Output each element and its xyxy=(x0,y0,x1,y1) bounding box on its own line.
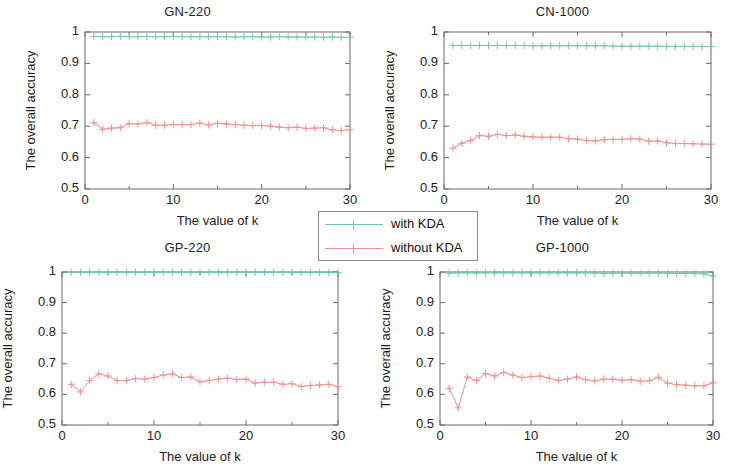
plus-marker-icon xyxy=(293,124,300,131)
plus-marker-icon xyxy=(285,33,292,40)
plus-marker-icon xyxy=(458,42,465,49)
plus-marker-icon xyxy=(664,379,671,386)
plus-marker-icon xyxy=(646,377,653,384)
plus-marker-icon xyxy=(90,33,97,40)
plus-marker-icon xyxy=(655,374,662,381)
y-axis-tick-label: 1 xyxy=(41,23,79,38)
plus-marker-icon xyxy=(132,269,139,276)
plus-marker-icon xyxy=(458,140,465,147)
plus-marker-icon xyxy=(123,377,130,384)
plus-marker-icon xyxy=(170,33,177,40)
x-axis-tick-label: 10 xyxy=(139,428,169,443)
plus-marker-icon xyxy=(574,135,581,142)
series-markers-without-kda xyxy=(68,370,342,395)
plus-marker-icon xyxy=(293,33,300,40)
plus-marker-icon xyxy=(636,43,643,50)
plus-marker-icon xyxy=(699,43,706,50)
axes-frame xyxy=(62,272,338,425)
plus-marker-icon xyxy=(529,42,536,49)
plus-marker-icon xyxy=(672,43,679,50)
plus-marker-icon xyxy=(232,33,239,40)
plus-marker-icon xyxy=(663,43,670,50)
plus-marker-icon xyxy=(491,269,498,276)
x-axis-label: The value of k xyxy=(62,449,338,464)
plus-marker-icon xyxy=(591,377,598,384)
plus-marker-icon xyxy=(618,43,625,50)
plus-marker-icon xyxy=(682,270,689,277)
plus-marker-icon xyxy=(529,133,536,140)
plus-marker-icon xyxy=(646,270,653,277)
plus-marker-icon xyxy=(537,269,544,276)
plus-marker-icon xyxy=(187,373,194,380)
legend-entry-with-kda: with KDA xyxy=(319,212,477,237)
plus-marker-icon xyxy=(123,269,130,276)
plus-marker-icon xyxy=(618,270,625,277)
y-axis-tick-label: 0.8 xyxy=(41,86,79,101)
chart-panel-gp-1000: GP-1000 0.50.60.70.80.910102030The value… xyxy=(375,240,750,469)
plus-marker-icon xyxy=(252,269,259,276)
series-markers-without-kda xyxy=(446,369,717,412)
plus-marker-icon xyxy=(672,140,679,147)
plus-marker-icon xyxy=(654,137,661,144)
plus-marker-icon xyxy=(178,269,185,276)
plus-marker-icon xyxy=(288,380,295,387)
plus-marker-icon xyxy=(348,243,359,254)
plus-marker-icon xyxy=(270,379,277,386)
plus-marker-icon xyxy=(170,121,177,128)
plus-marker-icon xyxy=(673,381,680,388)
plus-marker-icon xyxy=(104,269,111,276)
plus-marker-icon xyxy=(655,270,662,277)
plus-marker-icon xyxy=(114,377,121,384)
plus-marker-icon xyxy=(233,269,240,276)
plus-marker-icon xyxy=(467,137,474,144)
legend-entry-without-kda: without KDA xyxy=(319,236,477,261)
plus-marker-icon xyxy=(316,381,323,388)
plus-marker-icon xyxy=(464,269,471,276)
plus-marker-icon xyxy=(518,269,525,276)
plus-marker-icon xyxy=(311,124,318,131)
plus-marker-icon xyxy=(316,269,323,276)
plus-marker-icon xyxy=(449,42,456,49)
plus-marker-icon xyxy=(104,372,111,379)
x-axis-tick-label: 30 xyxy=(696,192,726,207)
plus-marker-icon xyxy=(233,376,240,383)
plus-marker-icon xyxy=(521,42,528,49)
plus-marker-icon xyxy=(601,136,608,143)
y-axis-tick-label: 0.9 xyxy=(41,54,79,69)
plus-marker-icon xyxy=(509,269,516,276)
plus-marker-icon xyxy=(503,132,510,139)
plus-marker-icon xyxy=(95,370,102,377)
y-axis-tick-label: 0.7 xyxy=(400,117,438,132)
plus-marker-icon xyxy=(609,270,616,277)
plus-marker-icon xyxy=(114,269,121,276)
plus-marker-icon xyxy=(574,42,581,49)
y-axis-label: The overall accuracy xyxy=(382,32,397,189)
plus-marker-icon xyxy=(618,377,625,384)
plus-marker-icon xyxy=(242,269,249,276)
x-axis-tick-label: 10 xyxy=(158,192,188,207)
plus-marker-icon xyxy=(279,269,286,276)
plus-marker-icon xyxy=(196,33,203,40)
plus-marker-icon xyxy=(161,122,168,129)
plus-marker-icon xyxy=(346,34,353,41)
y-axis-tick-label: 1 xyxy=(400,23,438,38)
plus-marker-icon xyxy=(512,131,519,138)
plus-marker-icon xyxy=(500,269,507,276)
plus-marker-icon xyxy=(143,33,150,40)
y-axis-tick-label: 0.7 xyxy=(396,355,434,370)
x-axis-tick-label: 0 xyxy=(47,428,77,443)
plus-marker-icon xyxy=(691,382,698,389)
plus-marker-icon xyxy=(609,376,616,383)
plus-marker-icon xyxy=(556,42,563,49)
plus-marker-icon xyxy=(224,269,231,276)
x-axis-label: The value of k xyxy=(85,213,350,228)
plus-marker-icon xyxy=(187,121,194,128)
plus-marker-icon xyxy=(108,124,115,131)
plus-marker-icon xyxy=(663,139,670,146)
plus-marker-icon xyxy=(455,404,462,411)
plus-marker-icon xyxy=(196,269,203,276)
plus-marker-icon xyxy=(178,374,185,381)
plus-marker-icon xyxy=(169,269,176,276)
x-axis-tick-label: 0 xyxy=(429,192,459,207)
legend-label: without KDA xyxy=(391,240,463,255)
